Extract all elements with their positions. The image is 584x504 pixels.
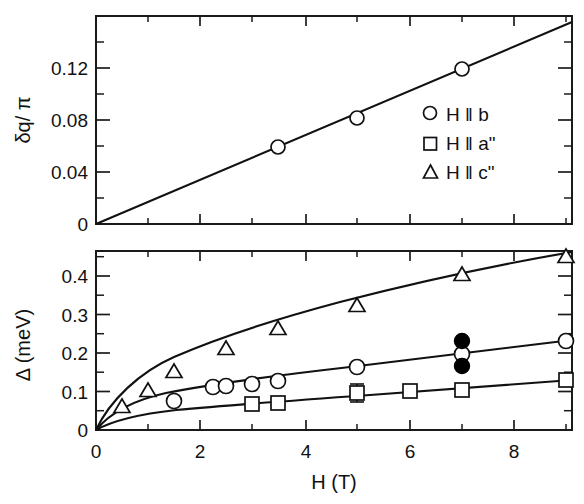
top-panel-fit-line	[96, 22, 572, 224]
data-point	[559, 334, 574, 349]
data-point-filled	[455, 359, 470, 374]
data-point	[350, 386, 364, 400]
x-axis-title: H (T)	[311, 471, 357, 493]
bottom-panel-x-bottom-ticks	[148, 420, 566, 430]
bottom-panel-series-h-parallel-c	[114, 249, 574, 413]
legend-label-2: H ‖ c"	[446, 162, 494, 183]
data-point	[245, 397, 259, 411]
x-tick-label-2: 2	[195, 441, 206, 462]
data-point	[218, 341, 234, 355]
bottom-y-tick-label-04: 0.4	[62, 266, 89, 287]
data-point	[219, 379, 234, 394]
data-point	[403, 384, 417, 398]
data-point	[455, 383, 469, 397]
data-point	[350, 111, 364, 125]
data-point-with-error	[350, 384, 364, 402]
legend-entry-1: H ‖ a"	[424, 133, 495, 154]
square-open-icon	[424, 138, 437, 151]
data-point	[271, 396, 285, 410]
data-point	[270, 321, 286, 335]
bottom-panel-y-major-ticks	[96, 276, 110, 430]
top-panel-y-axis-title: δq/ π	[12, 96, 34, 143]
data-point	[167, 394, 182, 409]
top-y-tick-label-004: 0.04	[51, 162, 88, 183]
legend-label-1: H ‖ a"	[446, 133, 495, 154]
top-y-tick-label-012: 0.12	[51, 58, 88, 79]
data-point	[271, 374, 286, 389]
top-panel-right-ticks	[558, 42, 572, 224]
data-point	[245, 377, 260, 392]
legend-entry-2: H ‖ c"	[424, 162, 495, 183]
data-point	[455, 62, 469, 76]
legend-entry-0: H ‖ b	[424, 104, 489, 125]
bottom-panel-x-top-ticks	[148, 251, 566, 261]
x-tick-label-8: 8	[509, 441, 520, 462]
x-tick-label-4: 4	[301, 441, 312, 462]
top-panel-x-bottom-ticks	[148, 214, 566, 224]
data-point-filled	[455, 334, 470, 349]
legend-label-0: H ‖ b	[446, 104, 489, 125]
x-tick-label-6: 6	[405, 441, 416, 462]
bottom-panel: 0 0.1 0.2 0.3 0.4 Δ (meV) 0 2 4 6 8 H (T…	[12, 249, 574, 493]
top-y-tick-label-008: 0.08	[51, 110, 88, 131]
data-point	[559, 373, 573, 387]
circle-open-icon	[424, 107, 437, 120]
data-point	[271, 140, 285, 154]
bottom-panel-y-axis-title: Δ (meV)	[12, 309, 34, 381]
legend: H ‖ b H ‖ a" H ‖ c"	[424, 104, 496, 183]
scientific-plot: 0 0.04 0.08 0.12 δq/ π H ‖ b	[0, 0, 584, 504]
bottom-y-tick-label-03: 0.3	[62, 305, 88, 326]
data-point	[166, 364, 182, 378]
data-point	[140, 383, 156, 397]
top-y-tick-label-0: 0	[77, 214, 88, 235]
bottom-y-tick-label-02: 0.2	[62, 343, 88, 364]
data-point	[350, 360, 365, 375]
triangle-open-icon	[424, 165, 438, 178]
bottom-y-tick-label-0: 0	[77, 420, 88, 441]
top-panel-x-top-ticks	[148, 16, 566, 26]
top-panel: 0 0.04 0.08 0.12 δq/ π H ‖ b	[12, 16, 572, 235]
bottom-panel-series-h-parallel-a	[245, 373, 573, 411]
figure-container: 0 0.04 0.08 0.12 δq/ π H ‖ b	[0, 0, 584, 504]
bottom-y-tick-label-01: 0.1	[62, 382, 88, 403]
bottom-panel-y-minor-ticks	[96, 257, 104, 411]
x-tick-label-0: 0	[91, 441, 102, 462]
